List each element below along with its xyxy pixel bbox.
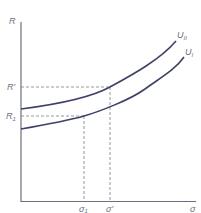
x-axis-label: σ [190, 204, 196, 213]
indifference-curve-chart: R σ R′ R1 σ1 σ′ UII UI [0, 0, 201, 213]
y-axis-label: R [9, 16, 16, 26]
lower-curve-label: UI [185, 47, 194, 58]
r1-label: R1 [6, 111, 16, 122]
lower-utility-curve [21, 57, 184, 129]
r-prime-label: R′ [7, 82, 15, 92]
sigma-prime-label: σ′ [106, 204, 113, 213]
sigma1-label: σ1 [79, 204, 88, 213]
upper-utility-curve [21, 41, 176, 109]
upper-curve-label: UII [177, 30, 187, 41]
